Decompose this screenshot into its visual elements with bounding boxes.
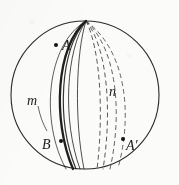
label-curve-m: m [27,93,37,108]
sphere-diagram: A m B n A′ [0,0,179,185]
point-marker-b [59,139,63,143]
label-curve-n: n [109,84,116,99]
dashed-curve-n-2 [86,21,107,169]
point-marker-a-prime [121,137,125,141]
label-point-a-prime: A′ [125,138,139,153]
solid-curve-m-inner [77,21,86,169]
figure-container: A m B n A′ [0,0,179,185]
label-point-b: B [42,137,51,152]
label-point-a: A [61,38,71,53]
dashed-curve-group-n [86,21,125,169]
m-leader-line [38,106,47,131]
point-marker-a [54,43,58,47]
